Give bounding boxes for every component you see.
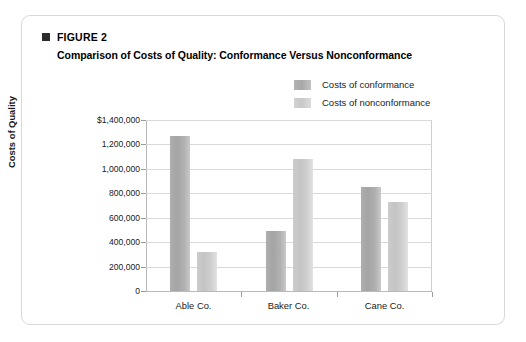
bar-bakerco-conformance [266, 231, 286, 291]
bar-caneco-nonconformance [388, 202, 408, 291]
y-axis-tick [141, 120, 146, 121]
y-axis-tick-label: 600,000 [109, 214, 140, 223]
y-axis-tick [141, 291, 146, 292]
y-axis-tick-label: 400,000 [109, 238, 140, 247]
y-axis-tick-label: 0 [135, 287, 140, 296]
y-axis-tick-label: 200,000 [109, 263, 140, 272]
x-axis-category-label: Cane Co. [337, 300, 432, 311]
y-axis-tick-label: 1,200,000 [102, 140, 140, 149]
y-axis-tick-label: 800,000 [109, 189, 140, 198]
y-axis-tick [141, 267, 146, 268]
bar-ableco-nonconformance [197, 252, 217, 291]
x-axis-category-label: Able Co. [146, 300, 241, 311]
y-axis-tick [141, 218, 146, 219]
y-axis-title: Costs of Quality [6, 48, 17, 168]
bar-chart: Costs of Quality 0200,000400,000600,0008… [22, 16, 506, 326]
figure-card: FIGURE 2 Comparison of Costs of Quality:… [21, 15, 505, 325]
x-axis-tick [241, 292, 242, 297]
bar-ableco-conformance [170, 136, 190, 291]
bar-bakerco-nonconformance [293, 159, 313, 291]
y-axis-tick [141, 242, 146, 243]
y-axis-tick [141, 144, 146, 145]
bar-caneco-conformance [361, 187, 381, 291]
x-axis-category-label: Baker Co. [241, 300, 336, 311]
y-axis-tick [141, 193, 146, 194]
y-axis-tick [141, 169, 146, 170]
x-axis-tick [432, 292, 433, 297]
y-axis-tick-label: $1,400,000 [97, 116, 140, 125]
plot-area: Able Co.Baker Co.Cane Co. [146, 120, 432, 292]
x-axis-line [146, 291, 432, 292]
gridline [146, 120, 432, 121]
y-axis-tick-labels: 0200,000400,000600,000800,0001,000,0001,… [84, 120, 140, 292]
y-axis-tick-label: 1,000,000 [102, 165, 140, 174]
x-axis-tick [337, 292, 338, 297]
